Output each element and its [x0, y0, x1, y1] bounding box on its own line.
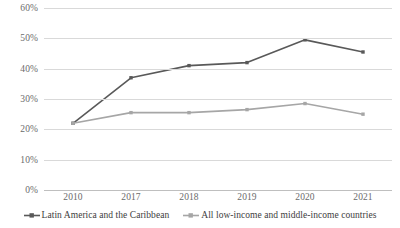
- line-chart: 0%10%20%30%40%50%60% 2010201720182019202…: [0, 0, 400, 228]
- y-axis-tick-label: 10%: [20, 155, 38, 165]
- data-point-marker: [245, 108, 248, 111]
- legend-entry[interactable]: Latin America and the Caribbean: [24, 210, 170, 220]
- plot-area: [44, 8, 392, 190]
- x-axis-tick-label: 2018: [179, 192, 198, 202]
- x-axis-tick-label: 2019: [237, 192, 256, 202]
- legend-label: All low-income and middle-income countri…: [201, 210, 376, 220]
- legend-entry[interactable]: All low-income and middle-income countri…: [183, 210, 376, 220]
- chart-legend: Latin America and the CaribbeanAll low-i…: [0, 206, 400, 224]
- x-axis-tick-label: 2017: [121, 192, 140, 202]
- gridline: [44, 38, 392, 39]
- gridline: [44, 69, 392, 70]
- x-axis-baseline: [44, 190, 392, 191]
- legend-label: Latin America and the Caribbean: [42, 210, 170, 220]
- gridline: [44, 160, 392, 161]
- data-point-marker: [187, 111, 190, 114]
- data-point-marker: [303, 102, 306, 105]
- line-marker-icon: [183, 211, 199, 220]
- y-axis-tick-label: 50%: [20, 33, 38, 43]
- line-marker-icon: [24, 211, 40, 220]
- gridline: [44, 8, 392, 9]
- y-axis-tick-label: 20%: [20, 124, 38, 134]
- y-axis-tick-labels: 0%10%20%30%40%50%60%: [0, 8, 42, 190]
- gridline: [44, 99, 392, 100]
- y-axis-tick-label: 60%: [20, 3, 38, 13]
- y-axis-tick-label: 30%: [20, 94, 38, 104]
- data-point-marker: [129, 111, 132, 114]
- data-point-marker: [361, 112, 364, 115]
- gridline: [44, 129, 392, 130]
- x-axis-tick-label: 2020: [295, 192, 314, 202]
- x-axis-tick-label: 2010: [63, 192, 82, 202]
- x-axis-tick-label: 2021: [353, 192, 372, 202]
- x-axis-tick-labels: 201020172018201920202021: [44, 192, 392, 206]
- data-point-marker: [129, 76, 132, 79]
- series-line: [73, 104, 363, 124]
- data-point-marker: [361, 50, 364, 53]
- data-point-marker: [245, 61, 248, 64]
- y-axis-tick-label: 40%: [20, 64, 38, 74]
- y-axis-tick-label: 0%: [25, 185, 38, 195]
- data-point-marker: [71, 122, 74, 125]
- data-point-marker: [187, 64, 190, 67]
